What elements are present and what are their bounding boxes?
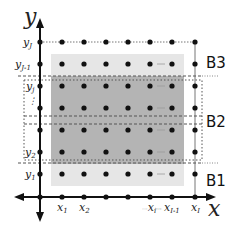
x-tick-x2: x2: [79, 201, 90, 215]
y-tick-yj: yj: [25, 80, 35, 94]
y-tick-yJ-1: yJ-1: [14, 58, 31, 72]
x-tick-x1: x1: [57, 201, 68, 215]
x-tick-xI: xI: [191, 201, 200, 215]
block-label-b1: B1: [206, 172, 226, 190]
y-axis-label: y: [23, 4, 37, 29]
x-tick-xi: ···xi: [142, 201, 156, 215]
block-label-b3: B3: [206, 54, 226, 72]
y-axis-arrow-down-icon: [36, 212, 44, 222]
x-tick-xI-1: xI-1: [164, 201, 180, 215]
grid-diagram: y x yJ yJ-1 yj ⋮ y2 y1 x1 x2 ···xi ···: [0, 0, 236, 233]
block-label-b2: B2: [206, 113, 226, 131]
y-axis-arrow-up-icon: [36, 18, 44, 28]
y-tick-y1: y1: [24, 168, 36, 182]
x-axis-arrow-left-icon: [14, 193, 24, 201]
y-tick-vertical-dots: ⋮: [28, 96, 37, 106]
x-axis-label: x: [208, 196, 221, 221]
x-tick-ellipsis: ···: [156, 205, 162, 212]
y-tick-y2: y2: [24, 146, 36, 160]
y-tick-yJ: yJ: [22, 36, 33, 50]
dark-region: [51, 76, 184, 164]
